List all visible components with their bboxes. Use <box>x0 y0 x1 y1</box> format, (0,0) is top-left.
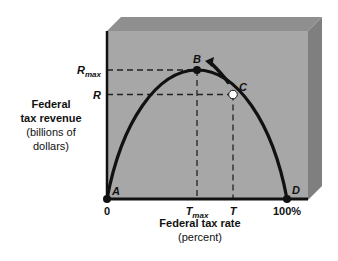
y-axis-title-line1: Federal <box>31 98 70 110</box>
x-tick-label: 100% <box>273 205 301 217</box>
y-axis-title-line2: tax revenue <box>20 112 81 124</box>
point-A <box>103 195 111 203</box>
y-tick-label: R <box>93 89 101 101</box>
point-label-A: A <box>111 185 120 197</box>
y-tick-label: Rmax <box>77 64 102 79</box>
point-label-C: C <box>239 81 248 93</box>
y-axis-subtitle-line1: (billions of <box>26 126 76 138</box>
box-top-face <box>107 17 322 31</box>
x-axis-title: Federal tax rate <box>159 217 240 229</box>
point-D <box>283 195 291 203</box>
box-side-face <box>308 17 322 200</box>
point-C <box>229 90 238 99</box>
point-label-B: B <box>193 53 201 65</box>
y-axis-subtitle-line2: dollars) <box>33 140 69 152</box>
laffer-curve-chart: ABCD 0TmaxT100% RmaxR Federal tax rate (… <box>0 0 338 261</box>
x-tick-label: 0 <box>104 205 110 217</box>
point-B <box>193 66 201 74</box>
x-tick-label: T <box>230 205 238 217</box>
x-axis-subtitle: (percent) <box>178 231 222 243</box>
point-label-D: D <box>292 184 300 196</box>
